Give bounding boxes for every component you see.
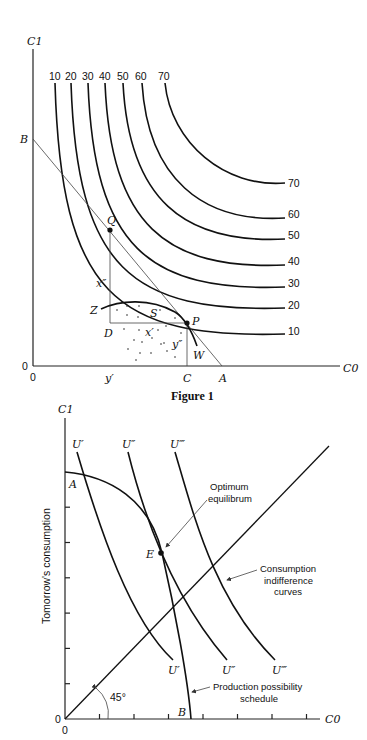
shade-dot [126,314,128,316]
curve-label-right-30: 30 [288,277,300,289]
point-label-E: E [145,548,154,561]
figure-2: C1 C0 0 0 Tomorrow's consumption 45° U′ … [40,403,340,736]
optimum-arrow [166,500,207,547]
fig1-indifference-curves [55,83,285,334]
shade-dot [159,309,161,311]
point-label-A2: A [68,478,77,491]
curve-label-right-10: 10 [288,325,300,337]
shade-dot [166,350,168,352]
curve-label-right-50: 50 [288,229,300,241]
curve-label-right-60: 60 [288,208,300,220]
curve-label-top-40: 40 [99,70,111,82]
label-U3-bottom: U‴ [272,664,287,677]
fig2-origin-y: 0 [55,713,61,725]
point-label-A: A [218,372,227,385]
production-label-1: Production possibility [213,681,302,692]
shade-dot [150,352,152,354]
fig2-y-axis-title: Tomorrow's consumption [40,508,52,624]
optimum-label-2: equilibrum [208,493,252,504]
shade-dot [174,356,176,358]
indifference-curve-30 [88,83,285,287]
point-label-Q: Q [107,214,116,227]
shade-dot [141,341,143,343]
production-label-2: schedule [240,693,278,704]
shade-dot [165,325,167,327]
consumption-arrow [227,570,257,580]
budget-line-BA [33,139,222,366]
indifference-curve-70 [165,83,285,183]
indifference-curve-60 [142,83,285,218]
shade-dot [180,332,182,334]
label-y-double-prime: y″ [171,338,183,351]
curve-label-right-20: 20 [288,299,300,311]
indifference-curve-U1 [77,452,173,660]
fig1-curve-right-labels: 70 60 50 40 30 20 10 [288,177,300,337]
shade-dot [157,329,159,331]
production-arrow [192,687,210,692]
label-U1-bottom: U′ [168,664,180,677]
point-E [158,550,164,556]
point-label-S: S [150,307,158,320]
shade-dot [135,359,137,361]
figure-1: C1 C0 0 0 10 20 30 40 50 60 70 70 60 50 … [19,35,358,403]
label-U2-top: U″ [122,438,136,451]
shade-dot [127,348,129,350]
fig1-curve-top-labels: 10 20 30 40 50 60 70 [49,70,170,82]
fig1-origin-y: 0 [22,360,28,372]
figure-1-caption: Figure 1 [171,389,214,403]
label-U1-top: U′ [72,438,84,451]
label-U3-top: U‴ [170,438,185,451]
fig2-origin-x: 0 [62,724,68,736]
consumption-label-1: Consumption [260,563,316,574]
fig1-x-axis-label: C0 [343,362,358,375]
consumption-label-3: curves [274,586,302,597]
point-P [184,320,189,325]
curve-label-top-60: 60 [135,70,147,82]
shade-dot [137,316,139,318]
point-label-Z: Z [89,304,98,317]
shade-dot [126,305,128,307]
curve-label-top-50: 50 [117,70,129,82]
label-x-double-prime: x″ [96,277,107,290]
fig1-y-axis-label: C1 [27,35,42,48]
shade-dot [160,343,162,345]
angle-label: 45° [110,691,126,703]
point-label-B2: B [177,706,186,719]
angle-arc [96,688,108,719]
optimum-label-1: Optimum [210,481,249,492]
figures-canvas: C1 C0 0 0 10 20 30 40 50 60 70 70 60 50 … [0,0,367,740]
indifference-curve-50 [123,83,285,239]
curve-label-top-30: 30 [82,70,94,82]
point-label-D: D [103,327,113,340]
point-Q [107,227,112,232]
shade-dot [133,339,135,341]
label-x-prime: x′ [145,326,154,339]
fig2-y-axis-label: C1 [58,403,73,416]
curve-label-right-70: 70 [288,177,300,189]
shade-dot [138,329,140,331]
curve-label-top-20: 20 [65,70,77,82]
shade-dot [123,328,125,330]
fig2-x-axis-label: C0 [325,713,340,726]
curve-label-top-70: 70 [158,70,170,82]
shade-dot [116,309,118,311]
label-U2-bottom: U″ [222,664,236,677]
point-label-C: C [183,372,192,385]
production-possibility-curve [65,472,191,719]
shade-dot [138,305,140,307]
point-label-P: P [191,315,200,328]
production-curve-ZPW [101,302,197,346]
label-y-prime: y′ [104,372,114,385]
point-label-W: W [193,349,206,362]
curve-label-right-40: 40 [288,255,300,267]
indifference-curve-40 [105,83,285,265]
point-label-B: B [19,133,28,146]
shade-dot [163,342,165,344]
curve-label-top-10: 10 [49,70,61,82]
fig1-origin-x: 0 [30,371,36,383]
shade-dot [174,317,176,319]
consumption-label-2: indifference [264,575,313,586]
shade-dot [139,352,141,354]
